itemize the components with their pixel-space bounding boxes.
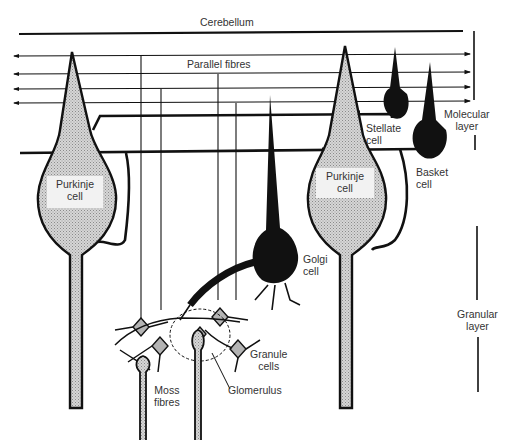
granule-axons: [141, 56, 236, 330]
granule-cells: [133, 308, 246, 358]
purkinje-cell-left-body: [38, 52, 116, 408]
golgi-label-line1: Golgi: [303, 253, 328, 265]
stellate-label-line2: cell: [366, 134, 401, 146]
stellate-label-line1: Stellate: [366, 122, 401, 134]
basket-label: Basket cell: [416, 166, 448, 190]
granular-layer-label-line1: Granular: [457, 308, 498, 320]
granule-cells-label-line1: Granule: [250, 348, 287, 360]
purkinje-right-label-line2: cell: [316, 182, 374, 194]
moss-fibres-label: Moss fibres: [154, 384, 180, 408]
golgi-label: Golgi cell: [303, 253, 328, 277]
granule-cells-label-line2: cells: [250, 360, 287, 372]
granular-layer-label: Granular layer: [457, 308, 498, 332]
golgi-cell: [253, 95, 299, 283]
basket-label-line1: Basket: [416, 166, 448, 178]
granule-cells-label: Granule cells: [250, 348, 287, 372]
cerebellum-label: Cerebellum: [200, 16, 254, 28]
basket-cell: [413, 62, 447, 159]
moss-fibres-label-line1: Moss: [154, 384, 180, 396]
golgi-dendrites: [180, 283, 300, 320]
golgi-axon: [190, 262, 255, 305]
parallel-fibres-label: Parallel fibres: [187, 58, 251, 70]
cerebellum-surface-line: [19, 31, 463, 34]
stellate-label: Stellate cell: [366, 122, 401, 146]
molecular-layer-label-line1: Molecular: [444, 108, 490, 120]
purkinje-left-label-line2: cell: [47, 190, 103, 202]
moss-fibres-label-line2: fibres: [154, 396, 180, 408]
molecular-layer-label-line2: layer: [444, 120, 490, 132]
cerebellum-circuit-diagram: [0, 0, 514, 440]
purkinje-cell-right-body: [308, 46, 386, 408]
purkinje-left-label: Purkinje cell: [47, 178, 103, 202]
purkinje-right-label-line1: Purkinje: [316, 170, 374, 182]
basket-label-line2: cell: [416, 178, 448, 190]
granular-layer-label-line2: layer: [457, 320, 498, 332]
golgi-label-line2: cell: [303, 265, 328, 277]
stellate-cell: [384, 47, 409, 119]
molecular-layer-label: Molecular layer: [444, 108, 490, 132]
glomerulus-label: Glomerulus: [228, 384, 282, 396]
purkinje-right-label: Purkinje cell: [316, 170, 374, 194]
purkinje-left-label-line1: Purkinje: [47, 178, 103, 190]
